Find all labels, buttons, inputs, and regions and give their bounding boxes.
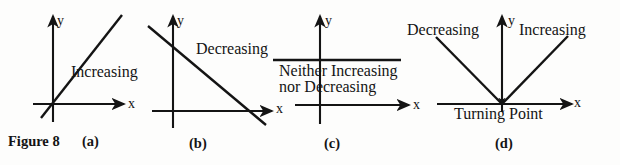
- panel-c-annotation-line1: Neither Increasing: [279, 63, 398, 79]
- panel-a-y-axis-label: y: [57, 14, 64, 28]
- panel-d-annotation-turning-point: Turning Point: [454, 106, 543, 122]
- panel-d-annotation-increasing: Increasing: [519, 22, 586, 38]
- panel-d-decreasing-arm: [436, 37, 502, 104]
- panel-d-annotation-decreasing: Decreasing: [407, 22, 479, 38]
- figure-caption-prefix: Figure 8: [8, 134, 60, 149]
- panel-d-caption: (d): [495, 136, 513, 151]
- panel-d-y-axis-label: y: [508, 14, 515, 28]
- panel-b-annotation-decreasing: Decreasing: [196, 41, 268, 57]
- panel-b-y-axis-label: y: [177, 14, 184, 28]
- panel-c-caption: (c): [324, 136, 340, 151]
- panel-b-graph: [148, 16, 272, 128]
- panel-a-caption: (a): [82, 134, 99, 149]
- figure-8-container: y x Increasing Figure 8 (a) y x Decreasi…: [0, 0, 620, 165]
- panel-d-x-axis-label: x: [574, 96, 581, 110]
- panel-b-x-axis-label: x: [276, 102, 283, 116]
- panel-b-caption: (b): [189, 136, 207, 151]
- panel-c-x-axis-label: x: [413, 98, 420, 112]
- panel-a-annotation-increasing: Increasing: [71, 64, 138, 80]
- panel-c-annotation-line2: nor Decreasing: [279, 79, 376, 95]
- panel-a-x-axis-label: x: [128, 97, 135, 111]
- panel-d-increasing-arm: [502, 36, 568, 104]
- panel-c-y-axis-label: y: [325, 14, 332, 28]
